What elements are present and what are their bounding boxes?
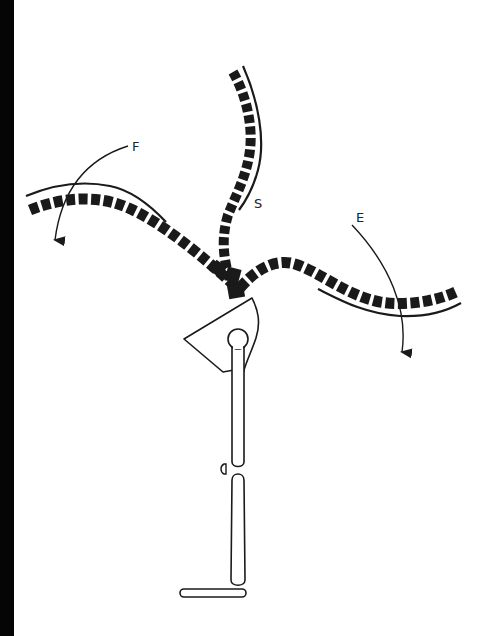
label-f: F [132,139,139,154]
right-arm-segments [240,262,458,303]
arrow-f-line [55,146,128,240]
label-s: S [254,196,262,211]
top-arm-segments [224,72,251,280]
arrow-e-line [352,225,403,352]
arrow-e: E [352,210,403,352]
base-plate [180,589,246,597]
lower-stalk [231,474,245,585]
arrow-f: F [55,139,139,240]
joint-nub [221,464,226,474]
diagram-canvas: F S E [0,0,490,636]
right-arm [240,262,461,316]
left-arm [26,184,235,286]
label-e: E [356,210,364,225]
top-arm [224,66,261,280]
